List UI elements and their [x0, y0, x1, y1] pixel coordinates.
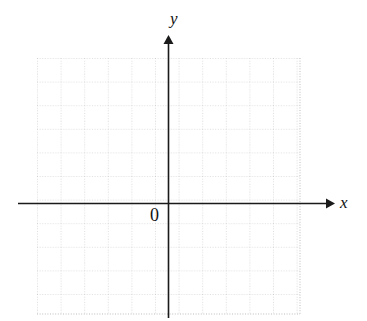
y-axis-arrowhead: [164, 35, 174, 44]
origin-label: 0: [150, 206, 159, 224]
x-axis-arrowhead: [326, 199, 335, 209]
y-axis-label: y: [170, 10, 178, 27]
axis-lines: [0, 0, 367, 321]
x-axis-label: x: [340, 194, 348, 211]
coordinate-grid-figure: y x 0: [0, 0, 367, 321]
grid-lines: [0, 0, 367, 321]
